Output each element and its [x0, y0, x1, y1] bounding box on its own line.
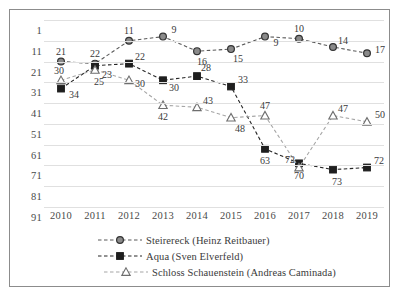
data-point-label: 30	[169, 82, 179, 93]
x-axis: 2010201120122013201420152016201720182019	[44, 210, 384, 226]
x-axis-tick-label: 2010	[50, 210, 72, 221]
x-axis-tick-label: 2019	[356, 210, 378, 221]
gridline	[44, 145, 384, 146]
legend-item-schloss-schauenstein[interactable]: Schloss Schauenstein (Andreas Caminada)	[100, 264, 384, 280]
y-axis-tick-label: 21	[14, 66, 42, 77]
data-point-label: 22	[135, 50, 145, 61]
legend-marker-square-icon	[94, 249, 146, 263]
data-point-label: 9	[171, 23, 176, 34]
data-point-label: 11	[124, 24, 134, 35]
legend-label: Steirereck (Heinz Reitbauer)	[146, 235, 270, 246]
data-point-label: 43	[203, 95, 213, 106]
y-axis-tick-label: 81	[14, 191, 42, 202]
data-point-label: 30	[135, 78, 145, 89]
y-axis-tick-label: 71	[14, 170, 42, 181]
gridline	[44, 62, 384, 63]
data-point-label: 14	[338, 35, 348, 46]
x-axis-tick-label: 2016	[254, 210, 276, 221]
data-point-label: 72	[374, 154, 384, 165]
data-point-label: 30	[54, 65, 64, 76]
legend-label: Aqua (Sven Elverfeld)	[146, 251, 243, 262]
gridline	[44, 207, 384, 208]
data-point-label: 28	[201, 62, 211, 73]
data-point-marker	[227, 113, 235, 121]
y-axis-tick-label: 61	[14, 149, 42, 160]
x-axis-tick-label: 2013	[152, 210, 174, 221]
data-point-label: 50	[375, 108, 385, 119]
y-axis-tick-label: 91	[14, 212, 42, 223]
x-axis-tick-label: 2018	[322, 210, 344, 221]
data-point-label: 34	[69, 88, 79, 99]
data-point-marker	[329, 111, 337, 119]
data-point-label: 42	[158, 111, 168, 122]
legend-label: Schloss Schauenstein (Andreas Caminada)	[152, 267, 336, 278]
data-point-label: 47	[338, 102, 348, 113]
series-line	[61, 64, 367, 170]
gridline	[44, 186, 384, 187]
data-point-label: 73	[332, 175, 342, 186]
data-point-label: 48	[235, 122, 245, 133]
data-point-marker	[330, 166, 337, 173]
data-point-marker	[160, 33, 167, 40]
data-point-marker	[228, 83, 235, 90]
gridline	[44, 165, 384, 166]
data-point-marker	[159, 101, 167, 109]
legend-item-steirereck[interactable]: Steirereck (Heinz Reitbauer)	[94, 232, 384, 248]
gridline	[44, 41, 384, 42]
data-point-label: 72	[285, 153, 295, 164]
data-point-marker	[228, 46, 235, 53]
y-axis-tick-label: 1	[14, 25, 42, 36]
gridline	[44, 20, 384, 21]
x-axis-tick-label: 2017	[288, 210, 310, 221]
data-point-label: 10	[294, 22, 304, 33]
data-point-label: 47	[260, 99, 270, 110]
x-axis-tick-label: 2012	[118, 210, 140, 221]
data-point-marker	[58, 85, 65, 92]
data-point-label: 25	[94, 75, 104, 86]
data-point-label: 17	[375, 44, 385, 55]
data-point-label: 70	[294, 170, 304, 181]
data-point-marker	[262, 145, 269, 152]
y-axis-tick-label: 11	[14, 45, 42, 56]
data-point-label: 33	[238, 74, 248, 85]
y-axis-tick-label: 31	[14, 87, 42, 98]
chart-frame: 1112131415161718191 21221191615910141734…	[9, 9, 390, 287]
data-point-marker	[330, 44, 337, 51]
x-axis-tick-label: 2014	[186, 210, 208, 221]
data-point-marker	[194, 73, 201, 80]
plot-area: 2122119161591014173423223028336370737230…	[44, 20, 384, 207]
data-point-label: 63	[260, 154, 270, 165]
legend-marker-triangle-icon	[100, 265, 152, 279]
y-axis-tick-label: 41	[14, 108, 42, 119]
y-axis: 1112131415161718191	[10, 20, 42, 207]
data-point-marker	[262, 33, 269, 40]
data-point-marker	[194, 48, 201, 55]
data-point-label: 15	[233, 53, 243, 64]
gridline	[44, 103, 384, 104]
y-axis-tick-label: 51	[14, 128, 42, 139]
data-point-marker	[261, 111, 269, 119]
gridline	[44, 124, 384, 125]
x-axis-tick-label: 2015	[220, 210, 242, 221]
data-point-label: 9	[273, 36, 278, 47]
series-line	[61, 70, 367, 168]
legend-marker-circle-icon	[94, 233, 146, 247]
chart-legend: Steirereck (Heinz Reitbauer) Aqua (Sven …	[44, 232, 384, 280]
data-point-label: 21	[56, 45, 66, 56]
data-point-marker	[364, 50, 371, 57]
x-axis-tick-label: 2011	[84, 210, 105, 221]
legend-item-aqua[interactable]: Aqua (Sven Elverfeld)	[94, 248, 384, 264]
data-point-label: 22	[90, 47, 100, 58]
